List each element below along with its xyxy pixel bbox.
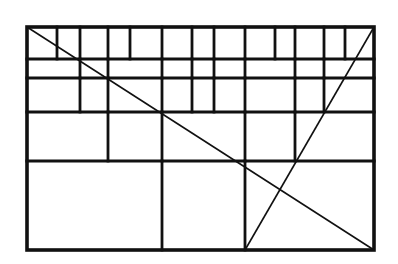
diagram-canvas	[0, 0, 398, 264]
grid-diagram	[0, 0, 398, 264]
